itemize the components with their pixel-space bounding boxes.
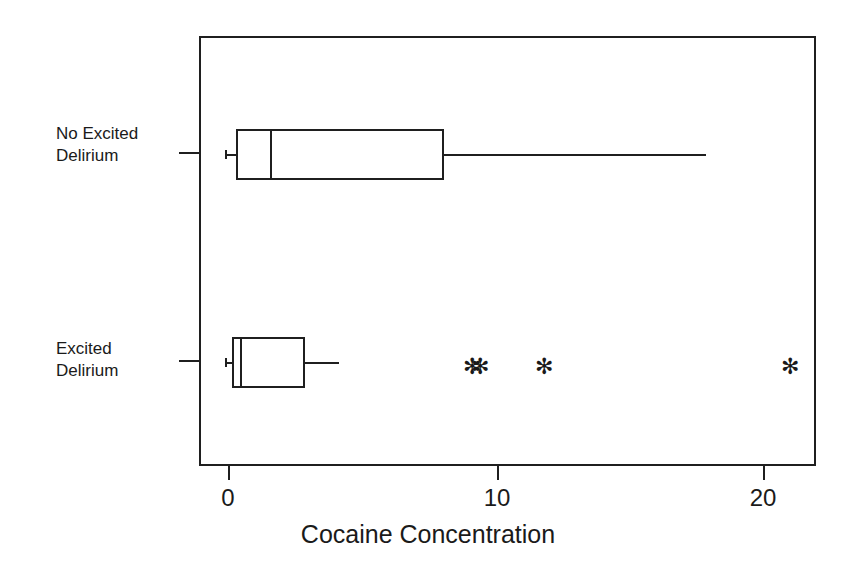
box-no-excited-delirium <box>236 129 444 180</box>
outlier-marker: ✻ <box>781 362 795 372</box>
whisker-high-line-excited-delirium <box>305 362 339 364</box>
x-axis-label-10: 10 <box>467 484 527 512</box>
category-label-no-excited-delirium: No Excited Delirium <box>56 123 186 167</box>
whisker-low-cap-no-excited-delirium <box>225 150 227 159</box>
outlier-marker: ✻ <box>471 362 485 372</box>
y-axis-tick-no-excited-delirium <box>179 152 199 154</box>
x-axis-label-20: 20 <box>733 484 793 512</box>
box-excited-delirium <box>232 337 305 388</box>
plot-area: ✻ ✻ ✻ ✻ <box>199 36 816 466</box>
x-axis-label-0: 0 <box>198 484 258 512</box>
x-axis-tick-20 <box>763 466 765 480</box>
x-axis-tick-10 <box>497 466 499 480</box>
median-line-no-excited-delirium <box>270 129 272 180</box>
x-axis-title: Cocaine Concentration <box>0 519 856 549</box>
boxplot-figure: No Excited Delirium Excited Delirium ✻ ✻… <box>0 0 856 582</box>
x-axis-tick-0 <box>228 466 230 480</box>
category-label-excited-delirium: Excited Delirium <box>56 338 186 382</box>
y-axis-tick-excited-delirium <box>179 360 199 362</box>
whisker-high-line-no-excited-delirium <box>444 154 706 156</box>
median-line-excited-delirium <box>240 337 242 388</box>
outlier-marker: ✻ <box>535 362 549 372</box>
whisker-low-cap-excited-delirium <box>225 358 227 367</box>
